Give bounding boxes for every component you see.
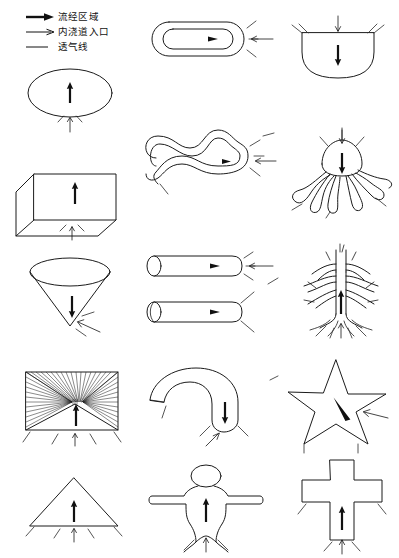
legend-item-vent-line: 透气线	[24, 40, 144, 54]
figure-cylinders	[140, 248, 280, 334]
figure-cone	[16, 250, 132, 336]
legend: 流经区域 内浇道入口 透气线	[24, 10, 144, 55]
figure-hook	[138, 358, 278, 448]
diagram-sheet: 流经区域 内浇道入口 透气线	[0, 0, 399, 558]
figure-star	[288, 356, 396, 446]
legend-label-ingate: 内浇道入口	[58, 26, 109, 38]
legend-label-vent-line: 透气线	[58, 41, 89, 53]
legend-item-flow-region: 流经区域	[24, 10, 144, 24]
plain-line-icon	[24, 41, 58, 53]
legend-label-flow-region: 流经区域	[58, 11, 99, 23]
filled-arrow-icon	[24, 11, 58, 23]
figure-stadium	[146, 14, 276, 68]
thin-arrow-icon	[24, 26, 58, 38]
figure-triangle	[20, 470, 130, 546]
figure-ellipse	[18, 62, 128, 134]
figure-serpent	[138, 118, 278, 202]
figure-person	[142, 462, 276, 554]
figure-hatchbox	[18, 366, 130, 448]
figure-box	[12, 160, 132, 242]
legend-item-ingate: 内浇道入口	[24, 25, 144, 39]
figure-tub	[288, 14, 392, 86]
figure-cross	[296, 458, 392, 554]
figure-tree	[286, 242, 394, 340]
figure-octopus	[286, 126, 394, 218]
